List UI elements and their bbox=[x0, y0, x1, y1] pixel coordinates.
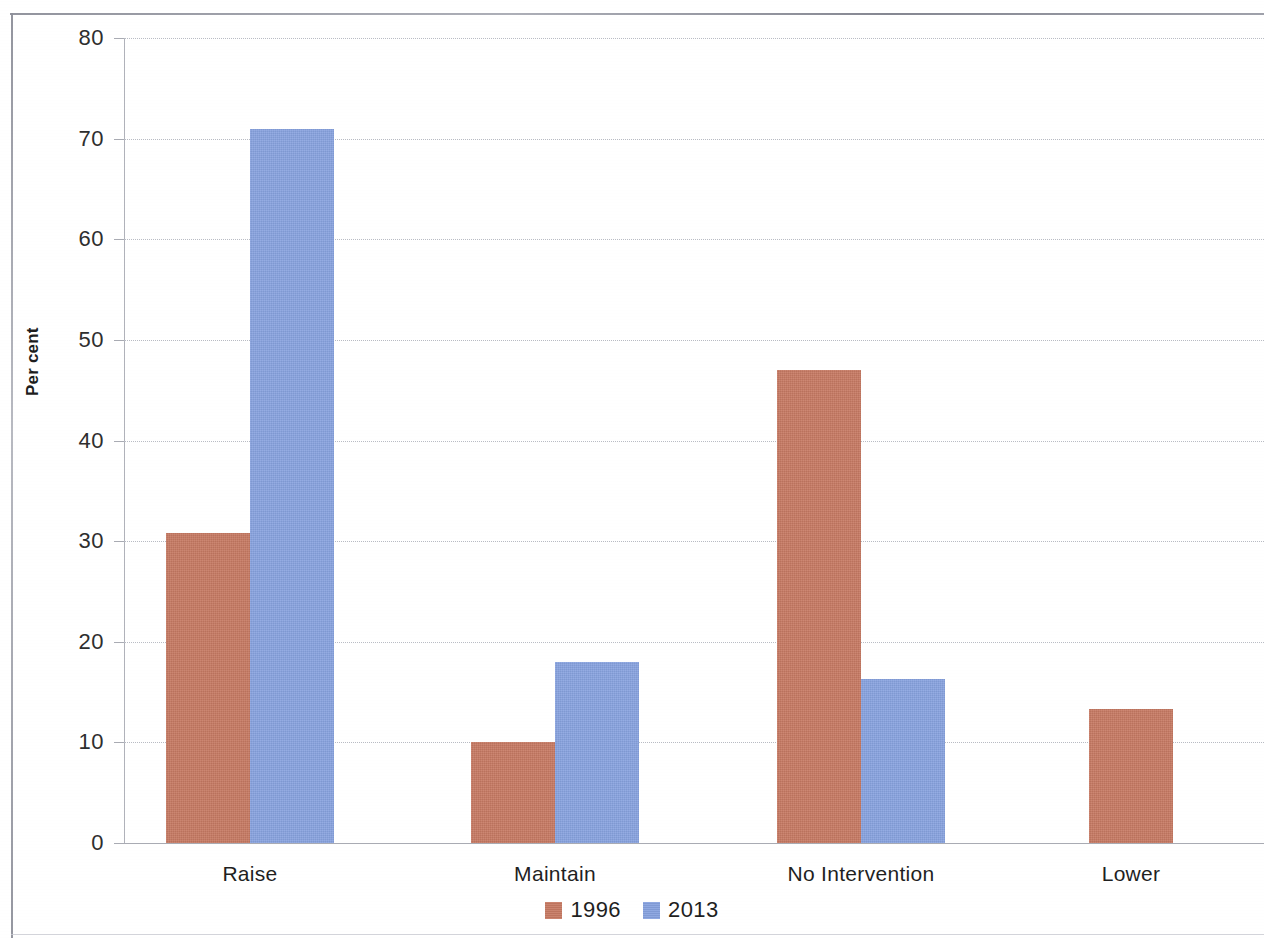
y-axis-tick-label: 30 bbox=[46, 528, 104, 554]
y-axis-tick-label: 20 bbox=[46, 629, 104, 655]
y-axis-tick bbox=[114, 340, 124, 341]
y-axis-tick bbox=[114, 843, 124, 844]
y-axis-tick bbox=[114, 38, 124, 39]
x-axis-tick-label-maintain: Maintain bbox=[514, 862, 596, 886]
y-axis-tick-labels: 01020304050607080 bbox=[40, 38, 104, 843]
bar-2013-maintain[interactable] bbox=[555, 662, 639, 843]
bar-2013-raise[interactable] bbox=[250, 129, 334, 843]
y-axis-tick-label: 60 bbox=[46, 226, 104, 252]
gridline bbox=[124, 38, 1264, 39]
legend-item-2013[interactable]: 2013 bbox=[643, 897, 719, 923]
y-axis-tick bbox=[114, 742, 124, 743]
bar-2013-no-intervention[interactable] bbox=[861, 679, 945, 843]
chart-legend: 19962013 bbox=[0, 897, 1264, 923]
y-axis-tick-label: 50 bbox=[46, 327, 104, 353]
gridline bbox=[124, 843, 1264, 844]
x-axis-tick-label-lower: Lower bbox=[1102, 862, 1161, 886]
legend-label: 1996 bbox=[570, 897, 621, 923]
bar-chart: Per cent 01020304050607080 RaiseMaintain… bbox=[0, 0, 1264, 938]
x-axis-tick-label-no-intervention: No Intervention bbox=[788, 862, 935, 886]
plot-area bbox=[124, 38, 1264, 843]
y-axis-tick bbox=[114, 139, 124, 140]
x-axis-tick-label-raise: Raise bbox=[222, 862, 277, 886]
legend-label: 2013 bbox=[668, 897, 719, 923]
bar-1996-no-intervention[interactable] bbox=[777, 370, 861, 843]
y-axis-tick bbox=[114, 541, 124, 542]
legend-item-1996[interactable]: 1996 bbox=[545, 897, 621, 923]
y-axis-tick bbox=[114, 441, 124, 442]
y-axis-tick-label: 10 bbox=[46, 729, 104, 755]
y-axis-tick bbox=[114, 239, 124, 240]
y-axis-tick-label: 0 bbox=[46, 830, 104, 856]
bar-1996-lower[interactable] bbox=[1089, 709, 1173, 843]
y-axis-tick-label: 80 bbox=[46, 25, 104, 51]
y-axis-tick bbox=[114, 642, 124, 643]
bar-1996-maintain[interactable] bbox=[471, 742, 555, 843]
y-axis-tick-label: 40 bbox=[46, 428, 104, 454]
legend-swatch-icon bbox=[643, 902, 660, 919]
y-axis-tick-label: 70 bbox=[46, 126, 104, 152]
legend-swatch-icon bbox=[545, 902, 562, 919]
bar-1996-raise[interactable] bbox=[166, 533, 250, 843]
